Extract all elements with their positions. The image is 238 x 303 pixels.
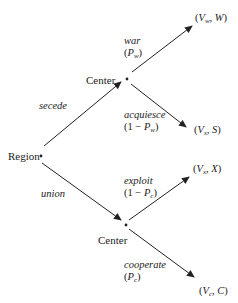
node-dot-center-upper <box>126 78 129 81</box>
node-label-center-upper: Center <box>86 74 115 86</box>
prob-close: ) <box>153 187 157 198</box>
branch-war-name: war <box>124 35 142 47</box>
branch-acquiesce-name: acquiesce <box>124 109 165 121</box>
prob-close: ) <box>137 271 141 282</box>
node-dot-region <box>40 155 43 158</box>
payoff-acquiesce: (Vs, S) <box>194 124 221 139</box>
branch-exploit-prob: (1 − Pc) <box>124 187 157 202</box>
branch-cooperate-prob: (Pc) <box>124 271 166 286</box>
edge-secede <box>44 82 121 146</box>
branch-cooperate-name: cooperate <box>124 259 166 271</box>
node-label-region: Region <box>8 150 40 162</box>
node-label-center-lower: Center <box>98 234 127 246</box>
branch-war-prob: (Pw) <box>124 47 142 62</box>
branch-label-exploit: exploit (1 − Pc) <box>124 175 157 202</box>
prob-close: ) <box>155 121 159 132</box>
payoff-cooperate: (Vc, C) <box>199 285 228 300</box>
prob-open: (1 − <box>124 121 144 132</box>
payoff-war: (Vw, W) <box>195 12 227 27</box>
payoff-exploit: (Vx, X) <box>193 163 221 178</box>
payoff-close: ) <box>218 163 222 174</box>
prob-close: ) <box>139 47 143 58</box>
branch-label-acquiesce: acquiesce (1 − Pw) <box>124 109 165 136</box>
branch-label-union: union <box>41 188 65 200</box>
node-dot-center-lower <box>125 224 128 227</box>
payoff-close: ) <box>224 12 228 23</box>
branch-acquiesce-prob: (1 − Pw) <box>124 121 165 136</box>
branch-exploit-name: exploit <box>124 175 157 187</box>
payoff-close: ) <box>217 124 221 135</box>
branch-label-war: war (Pw) <box>124 35 142 62</box>
payoff-x: W <box>215 12 224 23</box>
branch-label-secede: secede <box>39 100 67 112</box>
payoff-close: ) <box>224 285 228 296</box>
prob-open: (1 − <box>124 187 144 198</box>
branch-label-cooperate: cooperate (Pc) <box>124 259 166 286</box>
